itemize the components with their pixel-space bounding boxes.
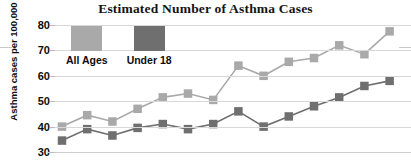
data-point-marker: [285, 112, 294, 121]
data-point-marker: [385, 27, 394, 35]
axis-edge-mark-left: [0, 47, 12, 48]
plot-area: [55, 0, 411, 160]
data-point-marker: [310, 54, 319, 63]
legend-label: Under 18: [127, 54, 172, 66]
data-point-marker: [310, 102, 319, 111]
data-point-marker: [360, 82, 369, 91]
y-tick-label-30: 30: [24, 146, 50, 158]
data-point-marker: [184, 89, 193, 98]
data-point-marker: [209, 96, 218, 105]
legend-item-all-ages: All Ages: [66, 26, 108, 66]
y-tickmark-70: [50, 50, 55, 51]
legend-swatch-icon: [134, 26, 165, 51]
data-point-marker: [234, 107, 243, 116]
asthma-cases-chart: Estimated Number of Asthma Cases Asthma …: [0, 0, 411, 160]
y-tick-label-80: 80: [24, 19, 50, 31]
data-point-marker: [108, 117, 117, 126]
series-layer: [55, 0, 411, 160]
gridline-30: [48, 152, 411, 153]
data-point-marker: [133, 124, 142, 132]
data-point-marker: [335, 41, 344, 50]
y-tick-label-70: 70: [24, 44, 50, 56]
data-point-marker: [234, 61, 243, 70]
y-axis-tick-labels: 304050607080: [22, 0, 50, 160]
y-tick-label-60: 60: [24, 70, 50, 82]
data-point-marker: [285, 58, 294, 67]
y-tickmark-80: [50, 25, 55, 26]
chart-legend: All AgesUnder 18: [66, 26, 172, 66]
y-tickmark-50: [50, 101, 55, 102]
y-axis-title: Asthma cases per 100,000: [8, 0, 19, 127]
gridline-40: [50, 127, 411, 128]
gridline-60: [50, 76, 411, 77]
y-tickmark-40: [50, 127, 55, 128]
data-point-marker: [108, 131, 117, 140]
y-tickmark-60: [50, 76, 55, 77]
legend-label: All Ages: [66, 54, 108, 66]
gridline-50: [50, 101, 411, 102]
data-point-marker: [133, 105, 142, 114]
legend-item-under-18: Under 18: [127, 26, 172, 66]
y-tick-label-40: 40: [24, 121, 50, 133]
data-point-marker: [385, 77, 394, 86]
data-point-marker: [83, 111, 92, 120]
data-point-marker: [58, 136, 67, 145]
y-tick-label-50: 50: [24, 95, 50, 107]
legend-swatch-icon: [71, 26, 102, 51]
y-tickmark-30: [50, 152, 55, 153]
